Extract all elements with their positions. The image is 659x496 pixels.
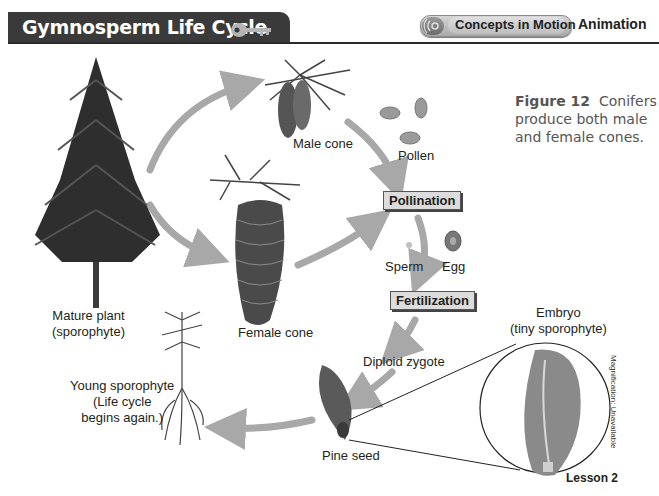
label-young-line3: begins again.) [70,410,174,426]
label-mature-plant: Mature plant (sporophyte) [52,308,125,340]
pine-seed-illustration [319,365,352,440]
label-pollen: Pollen [398,148,434,164]
label-diploid-zygote: Diploid zygote [363,354,445,370]
label-pine-seed: Pine seed [322,448,380,464]
label-embryo-line2: (tiny sporophyte) [510,321,607,337]
lesson-label: Lesson 2 [566,471,618,485]
label-sperm: Sperm [385,259,423,275]
arrow-fertilization-to-zygote [395,320,415,350]
sperm-illustration [406,242,412,248]
label-male-cone: Male cone [293,136,353,152]
label-embryo: Embryo (tiny sporophyte) [510,305,607,337]
fertilization-box: Fertilization [390,291,475,310]
label-young-line2: (Life cycle [70,394,174,410]
label-egg: Egg [442,259,465,275]
mature-tree-illustration [35,57,160,308]
arrow-plant-to-male-cone [150,85,245,170]
arrow-plant-to-female-cone [150,205,210,255]
male-cone-illustration [265,60,350,138]
embryo-magnified-illustration [480,343,610,476]
pollen-illustration [380,98,427,144]
female-cone-illustration [210,155,300,325]
label-mature-plant-line2: (sporophyte) [52,324,125,340]
arrow-female-to-pollination [298,222,375,265]
label-female-cone: Female cone [238,325,313,341]
magnification-note: Magnification: Unavailable [609,355,618,448]
arrow-male-to-pollination [348,122,395,182]
label-embryo-line1: Embryo [510,305,607,321]
label-young-line1: Young sporophyte [70,378,174,394]
arrow-seed-to-young [225,420,312,428]
label-young-sporophyte: Young sporophyte (Life cycle begins agai… [70,378,174,426]
label-mature-plant-line1: Mature plant [52,308,125,324]
arrow-zygote-to-seed [355,372,392,400]
pollination-box: Pollination [383,191,461,210]
